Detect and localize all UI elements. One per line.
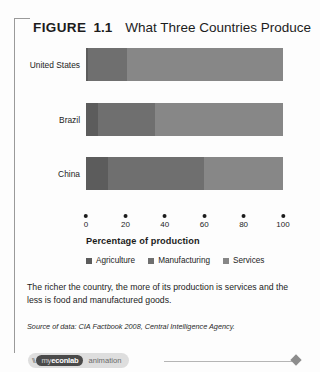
legend-swatch-icon	[223, 258, 229, 264]
figure-number: 1.1	[93, 20, 112, 35]
legend-item-services[interactable]: Services	[223, 256, 264, 265]
bar-row: United States	[0, 48, 320, 81]
bar-segment-united-states-manufacturing[interactable]	[88, 48, 127, 81]
x-axis-tick-label: 80	[239, 220, 248, 229]
x-axis-tick-40: 40	[160, 214, 169, 229]
bar-segment-brazil-manufacturing[interactable]	[98, 103, 155, 136]
myeconlab-animation-link[interactable]: \\ myeconlab animation	[28, 353, 129, 368]
logo-swoosh-icon: \\	[32, 356, 35, 365]
myeconlab-logo: \\ myeconlab	[32, 355, 83, 366]
bar-track	[86, 103, 283, 136]
bar-segment-united-states-services[interactable]	[127, 48, 283, 81]
x-axis-tick-label: 40	[160, 220, 169, 229]
legend-item-manufacturing[interactable]: Manufacturing	[148, 256, 210, 265]
bar-segment-china-manufacturing[interactable]	[108, 157, 205, 190]
x-axis-tick-0: 0	[84, 214, 88, 229]
bar-segment-brazil-agriculture[interactable]	[86, 103, 98, 136]
x-axis-tick-80: 80	[239, 214, 248, 229]
myeconlab-wordmark-econlab: econlab	[51, 356, 78, 365]
x-axis-tick-label: 20	[121, 220, 130, 229]
x-axis-tick-20: 20	[121, 214, 130, 229]
tick-dot-icon	[281, 214, 285, 218]
legend-label: Agriculture	[96, 256, 135, 265]
myeconlab-wordmark-my: my	[41, 356, 51, 365]
legend-swatch-icon	[86, 258, 92, 264]
figure-label: FIGURE	[33, 20, 86, 35]
bar-segment-china-agriculture[interactable]	[86, 157, 108, 190]
tick-dot-icon	[123, 214, 127, 218]
bar-label-united-states: United States	[10, 60, 80, 70]
bar-row: Brazil	[0, 103, 320, 136]
tick-dot-icon	[163, 214, 167, 218]
bar-segment-brazil-services[interactable]	[155, 103, 283, 136]
x-axis-tick-60: 60	[200, 214, 209, 229]
page-title: What Three Countries Produce	[125, 20, 311, 35]
x-axis-tick-100: 100	[276, 214, 289, 229]
figure-caption: The richer the country, the more of its …	[27, 281, 302, 307]
x-axis-tick-label: 100	[276, 220, 289, 229]
tick-dot-icon	[242, 214, 246, 218]
legend-label: Services	[233, 256, 264, 265]
myeconlab-footer: \\ myeconlab animation	[14, 352, 306, 370]
footer-diamond-icon	[290, 354, 301, 365]
tick-dot-icon	[84, 214, 88, 218]
bar-label-china: China	[10, 169, 80, 179]
legend-label: Manufacturing	[158, 256, 210, 265]
x-axis: 020406080100	[86, 214, 283, 236]
figure-source: Source of data: CIA Factbook 2008, Centr…	[27, 322, 309, 331]
bar-track	[86, 48, 283, 81]
bar-segment-china-services[interactable]	[204, 157, 283, 190]
figure-title: FIGURE 1.1 What Three Countries Produce	[33, 20, 311, 35]
legend-swatch-icon	[148, 258, 154, 264]
legend-item-agriculture[interactable]: Agriculture	[86, 256, 135, 265]
figure-container: FIGURE 1.1 What Three Countries Produce …	[0, 0, 320, 372]
footer-rule	[164, 361, 294, 362]
tick-dot-icon	[202, 214, 206, 218]
figure-frame-top-rule	[14, 18, 30, 19]
chart-plot-area: United StatesBrazilChina	[0, 48, 320, 213]
animation-label: animation	[88, 356, 121, 365]
x-axis-tick-label: 0	[84, 220, 88, 229]
x-axis-title: Percentage of production	[86, 236, 200, 246]
bar-track	[86, 157, 283, 190]
chart-legend: AgricultureManufacturingServices	[86, 256, 264, 265]
myeconlab-wordmark: myeconlab	[36, 355, 83, 366]
x-axis-tick-label: 60	[200, 220, 209, 229]
bar-label-brazil: Brazil	[10, 115, 80, 125]
bar-row: China	[0, 157, 320, 190]
